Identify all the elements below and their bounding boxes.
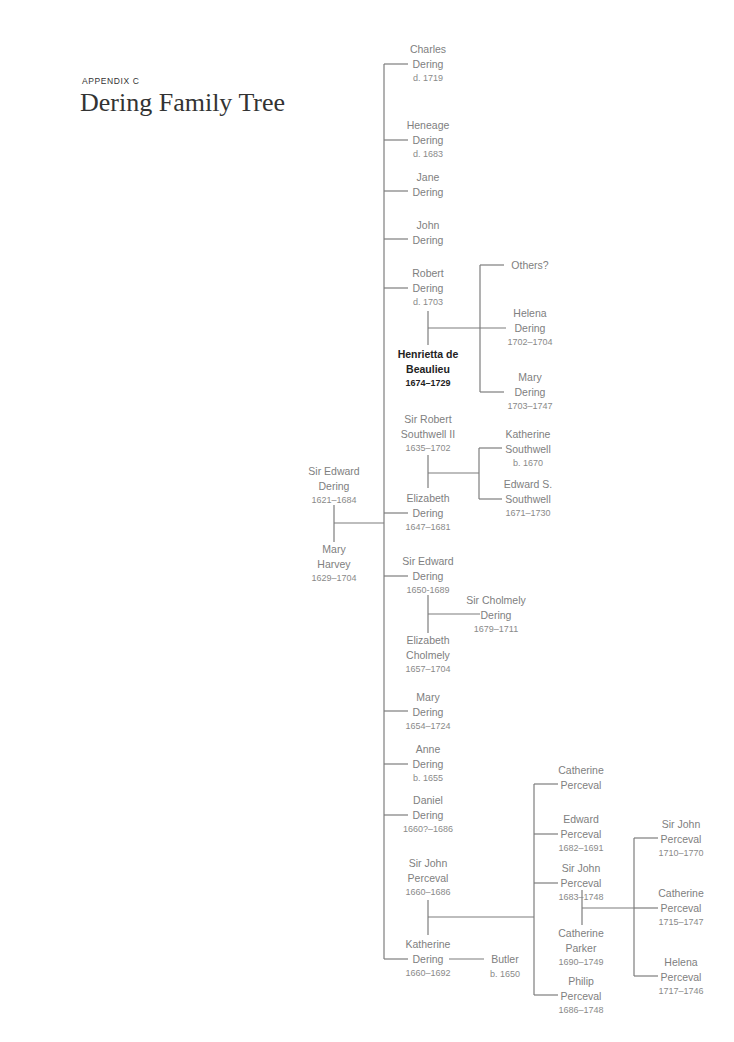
person-dates: d. 1703 [412,295,444,310]
person-surname: Perceval [558,876,603,891]
person-surname: Parker [558,941,604,956]
person-dates: 1703–1747 [507,399,552,414]
person-name: Edward [558,812,603,827]
person-name: Heneage [407,118,450,133]
person-elizabeth-dering: Elizabeth Dering 1647–1681 [405,491,450,535]
person-dates: 1654–1724 [405,719,450,734]
person-surname: Dering [412,281,444,296]
person-catherine-parker: Catherine Parker 1690–1749 [558,926,604,970]
person-name: Mary [311,542,356,557]
person-name: Jane [413,170,444,185]
person-robert-dering: Robert Dering d. 1703 [412,266,444,310]
person-surname: Dering [403,808,453,823]
person-name: Sir John [558,861,603,876]
person-dates: 1686–1748 [558,1003,603,1018]
person-anne-dering: Anne Dering b. 1655 [413,742,444,786]
person-name: Sir Edward [308,464,359,479]
person-dates: 1635–1702 [401,441,455,456]
person-dates: 1702–1704 [507,335,552,350]
person-name: John [413,218,444,233]
person-name: Philip [558,974,603,989]
person-surname: Dering [308,479,359,494]
person-surname: Southwell [505,442,551,457]
person-philip-perceval: Philip Perceval 1686–1748 [558,974,603,1018]
person-name: Elizabeth [405,633,450,648]
person-name: Katherine [405,937,450,952]
tree-connector-lines [0,0,734,1042]
person-dates: 1621–1684 [308,493,359,508]
person-name: Catherine [558,763,604,778]
person-name: Elizabeth [405,491,450,506]
person-name: Mary [507,370,552,385]
person-helena-dering: Helena Dering 1702–1704 [507,306,552,350]
person-name: Mary [405,690,450,705]
person-surname: Dering [410,57,446,72]
person-name: Helena [658,955,703,970]
person-dates: 1629–1704 [311,571,356,586]
person-henrietta-de-beaulieu: Henrietta de Beaulieu 1674–1729 [398,347,459,391]
person-surname: Dering [507,321,552,336]
person-dates: 1715–1747 [658,915,704,930]
person-dates: 1660–1686 [405,885,450,900]
person-name: Helena [507,306,552,321]
person-dates: 1660–1692 [405,966,450,981]
person-dates: 1647–1681 [405,520,450,535]
person-name: Robert [412,266,444,281]
person-surname: Dering [413,757,444,772]
person-surname: Dering [402,569,453,584]
person-mary-dering-1654: Mary Dering 1654–1724 [405,690,450,734]
person-heneage-dering: Heneage Dering d. 1683 [407,118,450,162]
person-butler: Butler b. 1650 [490,952,520,981]
person-katherine-dering: Katherine Dering 1660–1692 [405,937,450,981]
person-surname: Dering [507,385,552,400]
person-name: Catherine [558,926,604,941]
person-dates: b. 1670 [505,456,551,471]
person-dates: 1660?–1686 [403,822,453,837]
person-dates: 1717–1746 [658,984,703,999]
person-jane-dering: Jane Dering [413,170,444,199]
person-surname: Cholmely [405,648,450,663]
person-dates: 1690–1749 [558,955,604,970]
person-surname: Beaulieu [398,362,459,377]
person-dates: 1650-1689 [402,583,453,598]
person-surname: Perceval [558,778,604,793]
person-sir-robert-southwell: Sir Robert Southwell II 1635–1702 [401,412,455,456]
person-name: Sir Edward [402,554,453,569]
person-surname: Perceval [658,901,704,916]
person-surname: Dering [407,133,450,148]
person-dates: 1710–1770 [658,846,703,861]
person-dates: b. 1650 [490,967,520,982]
person-catherine-perceval-1715: Catherine Perceval 1715–1747 [658,886,704,930]
person-surname: Southwell [504,492,552,507]
person-sir-edward-dering-jr: Sir Edward Dering 1650-1689 [402,554,453,598]
person-name: Sir Cholmely [466,593,526,608]
person-surname: Dering [413,233,444,248]
person-mary-dering-1703: Mary Dering 1703–1747 [507,370,552,414]
person-name: Catherine [658,886,704,901]
person-sir-john-perceval-1660: Sir John Perceval 1660–1686 [405,856,450,900]
person-name: Charles [410,42,446,57]
person-surname: Dering [405,506,450,521]
person-sir-john-perceval-1683: Sir John Perceval 1683–1748 [558,861,603,905]
person-edward-perceval: Edward Perceval 1682–1691 [558,812,603,856]
person-name: Daniel [403,793,453,808]
person-dates: 1671–1730 [504,506,552,521]
person-katherine-southwell: Katherine Southwell b. 1670 [505,427,551,471]
person-sir-cholmely-dering: Sir Cholmely Dering 1679–1711 [466,593,526,637]
person-surname: Perceval [658,970,703,985]
person-name: Sir John [658,817,703,832]
person-dates: 1682–1691 [558,841,603,856]
person-dates: 1674–1729 [398,376,459,391]
person-charles-dering: Charles Dering d. 1719 [410,42,446,86]
person-dates: d. 1719 [410,71,446,86]
person-name: Others? [511,258,548,273]
person-surname: Dering [405,705,450,720]
person-dates: d. 1683 [407,147,450,162]
person-surname: Dering [405,952,450,967]
person-dates: 1683–1748 [558,890,603,905]
person-surname: Perceval [558,989,603,1004]
person-sir-john-perceval-1710: Sir John Perceval 1710–1770 [658,817,703,861]
person-others: Others? [511,258,548,273]
person-name: Sir Robert [401,412,455,427]
person-surname: Perceval [658,832,703,847]
